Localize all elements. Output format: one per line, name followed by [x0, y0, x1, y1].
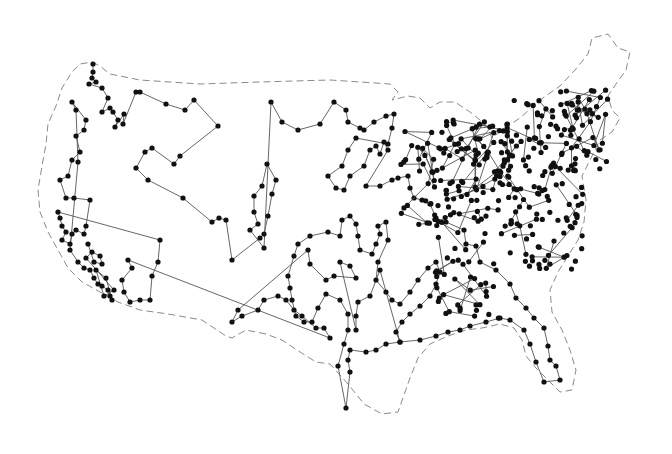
city-point — [483, 214, 488, 219]
city-point — [85, 241, 90, 246]
city-point — [472, 157, 477, 162]
city-point — [554, 182, 559, 187]
city-point — [425, 265, 430, 270]
city-point — [574, 215, 579, 220]
city-point — [257, 235, 262, 240]
city-point — [251, 193, 256, 198]
city-point — [534, 211, 539, 216]
city-point — [430, 170, 435, 175]
city-point — [433, 333, 438, 338]
city-point — [473, 243, 478, 248]
city-point — [323, 291, 328, 296]
city-point — [142, 149, 147, 154]
city-point — [121, 111, 126, 116]
city-point — [383, 219, 388, 224]
city-point — [361, 163, 366, 168]
city-point — [518, 139, 523, 144]
city-point — [527, 168, 532, 173]
city-point — [353, 275, 358, 280]
city-point — [569, 145, 574, 150]
city-point — [527, 137, 532, 142]
city-point — [357, 247, 362, 252]
city-point — [530, 232, 535, 237]
city-point — [389, 125, 394, 130]
city-point — [91, 275, 96, 280]
city-point — [439, 220, 444, 225]
city-point — [438, 178, 443, 183]
city-point — [537, 140, 542, 145]
city-point — [345, 311, 350, 316]
city-point — [509, 139, 514, 144]
city-point — [464, 192, 469, 197]
city-point — [575, 107, 580, 112]
city-point — [180, 195, 185, 200]
city-point — [321, 325, 326, 330]
city-point — [434, 274, 439, 279]
city-point — [377, 151, 382, 156]
city-point — [339, 217, 344, 222]
city-point — [315, 305, 320, 310]
city-point — [407, 185, 412, 190]
city-point — [428, 201, 433, 206]
city-point — [491, 140, 496, 145]
city-point — [353, 327, 358, 332]
city-point — [415, 145, 420, 150]
city-point — [99, 261, 104, 266]
city-point — [73, 107, 78, 112]
city-point — [531, 103, 536, 108]
city-point — [524, 236, 529, 241]
city-point — [569, 267, 574, 272]
city-point — [457, 211, 462, 216]
city-point — [133, 165, 138, 170]
city-point — [216, 215, 221, 220]
city-point — [90, 69, 95, 74]
city-point — [435, 203, 440, 208]
city-point — [57, 215, 62, 220]
city-point — [440, 165, 445, 170]
city-point — [521, 327, 526, 332]
city-point — [103, 275, 108, 280]
city-point — [377, 267, 382, 272]
city-point — [532, 184, 537, 189]
city-points — [55, 61, 562, 410]
city-point — [526, 154, 531, 159]
city-point — [353, 221, 358, 226]
city-point — [463, 146, 468, 151]
city-point — [285, 273, 290, 278]
city-point — [119, 277, 124, 282]
city-point — [496, 198, 501, 203]
city-point — [115, 117, 120, 122]
city-point — [472, 215, 477, 220]
city-point — [594, 104, 599, 109]
city-point — [125, 257, 130, 262]
city-point — [93, 79, 98, 84]
city-point — [389, 177, 394, 182]
city-point — [55, 209, 60, 214]
city-point — [573, 113, 578, 118]
city-point — [337, 297, 342, 302]
city-point — [598, 95, 603, 100]
city-point — [567, 202, 572, 207]
city-point — [574, 144, 579, 149]
city-point — [255, 307, 260, 312]
city-point — [459, 146, 464, 151]
city-point — [327, 335, 332, 340]
city-point — [313, 325, 318, 330]
city-point — [149, 145, 154, 150]
city-point — [129, 265, 134, 270]
city-point — [399, 319, 404, 324]
city-point — [337, 233, 342, 238]
city-point — [443, 146, 448, 151]
city-point — [547, 261, 552, 266]
city-point — [291, 307, 296, 312]
city-point — [579, 246, 584, 251]
city-point — [353, 313, 358, 318]
city-point — [521, 157, 526, 162]
city-point — [391, 111, 396, 116]
city-point — [588, 119, 593, 124]
city-point — [493, 267, 498, 272]
city-point — [451, 196, 456, 201]
city-point — [397, 301, 402, 306]
city-point — [347, 369, 352, 374]
city-point — [541, 325, 546, 330]
